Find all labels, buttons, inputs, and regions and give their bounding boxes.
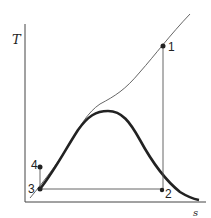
point-3 xyxy=(38,187,43,192)
x-axis-label: s xyxy=(193,207,198,218)
y-axis-label: T xyxy=(12,32,22,47)
saturation-dome xyxy=(40,111,199,200)
point-label-3: 3 xyxy=(28,182,35,196)
point-4 xyxy=(38,165,43,170)
point-2 xyxy=(160,188,164,192)
ts-diagram: 1 2 3 4 T s xyxy=(0,0,211,218)
point-1 xyxy=(161,44,166,49)
point-label-4: 4 xyxy=(31,158,38,172)
point-label-1: 1 xyxy=(168,40,175,54)
point-label-2: 2 xyxy=(165,187,172,201)
